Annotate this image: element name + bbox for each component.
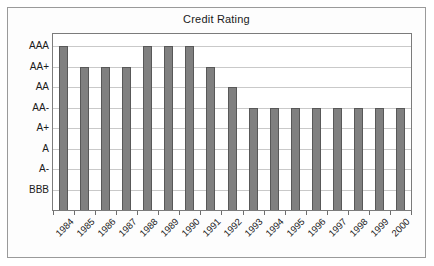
- bar-1996: [312, 108, 321, 210]
- y-tick-label: AA-: [5, 103, 49, 113]
- chart-title: Credit Rating: [7, 13, 426, 25]
- y-tick-label: A+: [5, 123, 49, 133]
- bar-1988: [143, 46, 152, 210]
- x-tick-mark: [179, 211, 180, 215]
- y-tick-label: BBB: [5, 185, 49, 195]
- x-tick-mark: [411, 211, 412, 215]
- x-tick-mark: [53, 211, 54, 215]
- bar-1992: [228, 87, 237, 210]
- x-tick-mark: [137, 211, 138, 215]
- x-tick-mark: [369, 211, 370, 215]
- x-tick-label: 1994: [258, 216, 286, 244]
- y-tick-label: A-: [5, 164, 49, 174]
- credit-rating-chart: Credit Rating AAAAA+AAAA-A+AA-BBB 198419…: [0, 0, 434, 266]
- x-tick-label: 1990: [174, 216, 202, 244]
- x-tick-mark: [200, 211, 201, 215]
- x-tick-mark: [74, 211, 75, 215]
- x-tick-label: 1984: [48, 216, 76, 244]
- x-tick-label: 1992: [216, 216, 244, 244]
- bar-1985: [80, 67, 89, 210]
- bar-1989: [164, 46, 173, 210]
- bar-2000: [396, 108, 405, 210]
- bar-1986: [101, 67, 110, 210]
- y-tick-label: AAA: [5, 41, 49, 51]
- x-tick-mark: [306, 211, 307, 215]
- bar-1999: [375, 108, 384, 210]
- x-tick-label: 1989: [153, 216, 181, 244]
- bar-1995: [291, 108, 300, 210]
- x-axis: 1984198519861987198819891990199119921993…: [52, 216, 412, 256]
- x-tick-label: 1995: [279, 216, 307, 244]
- bar-1998: [354, 108, 363, 210]
- y-tick-label: A: [5, 144, 49, 154]
- x-tick-mark: [158, 211, 159, 215]
- x-tick-label: 1993: [237, 216, 265, 244]
- y-tick-label: AA+: [5, 62, 49, 72]
- bar-1994: [270, 108, 279, 210]
- x-tick-label: 2000: [385, 216, 413, 244]
- y-axis: AAAAA+AAAA-A+AA-BBB: [3, 33, 49, 211]
- x-tick-mark: [221, 211, 222, 215]
- bar-1993: [249, 108, 258, 210]
- plot-area: [52, 33, 412, 211]
- bar-1984: [59, 46, 68, 210]
- x-tick-mark: [264, 211, 265, 215]
- gridline: [53, 46, 411, 47]
- x-tick-mark: [348, 211, 349, 215]
- bar-1987: [122, 67, 131, 210]
- x-tick-mark: [243, 211, 244, 215]
- x-tick-label: 1991: [195, 216, 223, 244]
- x-tick-mark: [327, 211, 328, 215]
- bar-1991: [206, 67, 215, 210]
- bar-1997: [333, 108, 342, 210]
- x-tick-mark: [116, 211, 117, 215]
- y-tick-label: AA: [5, 82, 49, 92]
- bar-1990: [185, 46, 194, 210]
- x-tick-mark: [285, 211, 286, 215]
- x-tick-mark: [390, 211, 391, 215]
- x-tick-mark: [95, 211, 96, 215]
